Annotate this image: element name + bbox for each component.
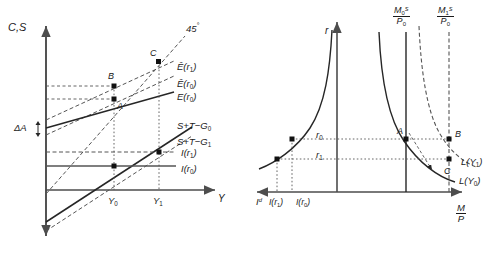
point-ir0-right bbox=[290, 137, 295, 142]
point-b-label-left: B bbox=[108, 72, 114, 81]
point-e0-left bbox=[112, 164, 117, 169]
money-supply-m1-label: M1S P0 bbox=[437, 6, 454, 27]
money-demand-ly1-label: L(Y1) bbox=[461, 157, 482, 168]
economics-figure: C,S 45° Ê(r1) Ê(r0) E(r0) S+T−G0 S+T−G1 … bbox=[0, 0, 497, 256]
point-b-left bbox=[112, 84, 117, 89]
figure-vector-layer bbox=[0, 0, 497, 256]
investment-r1-label: I(r1) bbox=[181, 148, 197, 159]
delta-a-bracket bbox=[36, 121, 41, 137]
r1-tick-label: r1 bbox=[316, 150, 323, 161]
point-b-right bbox=[447, 137, 452, 142]
money-demand-ly0-curve bbox=[379, 32, 455, 182]
forty-five-degree-label: 45° bbox=[186, 22, 199, 33]
y1-tick-label: Y1 bbox=[153, 196, 163, 207]
r0-tick-label: r0 bbox=[316, 130, 323, 141]
point-c-label-left: C bbox=[150, 49, 157, 58]
e-r0-curve bbox=[46, 92, 174, 128]
point-a-left bbox=[112, 97, 117, 102]
point-a-label-right: A bbox=[397, 127, 403, 136]
left-x-axis-label: Y bbox=[218, 194, 225, 204]
investment-demand-curve bbox=[259, 30, 332, 169]
forty-five-degree-line bbox=[46, 36, 185, 194]
e-hat-r1-curve bbox=[46, 61, 174, 120]
left-y-axis-label: C,S bbox=[8, 22, 26, 33]
point-c-label-right: C bbox=[444, 167, 451, 176]
y0-tick-label: Y0 bbox=[108, 196, 118, 207]
saving-g0-label: S+T−G0 bbox=[177, 121, 211, 132]
point-a-label-left: A bbox=[117, 102, 123, 111]
money-supply-m0-label: M0S P0 bbox=[393, 6, 410, 27]
delta-a-label: ΔA bbox=[14, 123, 27, 133]
ir1-tick-label: I(r1) bbox=[269, 198, 283, 208]
e-hat-r0-curve bbox=[46, 76, 174, 135]
right-y-axis-label: r bbox=[325, 26, 328, 36]
e-hat-r1-label: Ê(r1) bbox=[177, 62, 196, 73]
money-demand-ly0-label: L(Y0) bbox=[459, 176, 480, 187]
ir0-tick-label: I(r0) bbox=[296, 198, 310, 208]
e-r0-label: E(r0) bbox=[177, 92, 196, 103]
e-hat-r0-label: Ê(r0) bbox=[177, 79, 196, 90]
point-ir1-right bbox=[275, 157, 280, 162]
point-e1-left bbox=[157, 150, 162, 155]
point-a-right bbox=[404, 137, 409, 142]
point-c-left bbox=[156, 59, 161, 64]
investment-r0-label: I(r0) bbox=[181, 164, 197, 175]
saving-curve-g0 bbox=[46, 127, 192, 222]
point-c-right bbox=[447, 157, 452, 162]
money-demand-ly1-curve bbox=[419, 26, 476, 167]
point-b-label-right: B bbox=[455, 130, 461, 139]
right-x-axis-label: M P bbox=[456, 203, 466, 224]
saving-curve-g1 bbox=[46, 136, 192, 231]
investment-demand-axis-label: Id bbox=[256, 197, 262, 207]
